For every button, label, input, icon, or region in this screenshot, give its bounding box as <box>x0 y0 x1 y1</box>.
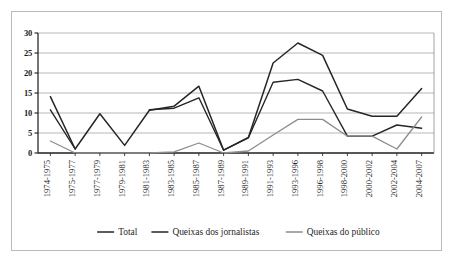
x-tick-label: 1993-1996 <box>290 159 300 197</box>
x-tick-label: 1981-1983 <box>141 160 151 197</box>
x-tick-label: 1974-1975 <box>42 160 52 197</box>
x-tick-label: 1989-1991 <box>240 160 250 197</box>
x-tick-label: 2004-2007 <box>414 159 424 197</box>
y-tick-label: 25 <box>24 48 32 58</box>
series-line <box>149 79 421 150</box>
x-tick-label: 1987-1989 <box>216 160 226 197</box>
y-tick-label: 5 <box>28 128 32 138</box>
series-line <box>50 43 421 150</box>
x-tick-label: 1998-2000 <box>339 160 349 197</box>
y-tick-label: 0 <box>28 148 32 158</box>
x-tick-label: 1985-1987 <box>191 159 201 197</box>
x-tick-label: 1996-1998 <box>315 160 325 197</box>
legend-label: Queixas dos jornalistas <box>172 227 259 237</box>
x-tick-label: 2002-2004 <box>389 159 399 197</box>
x-tick-label: 1977-1979 <box>92 160 102 197</box>
y-tick-label: 10 <box>24 108 32 118</box>
y-tick-label: 30 <box>24 28 32 38</box>
legend-label: Queixas do público <box>307 227 380 237</box>
chart-legend: TotalQueixas dos jornalistasQueixas do p… <box>97 227 380 237</box>
y-tick-label: 20 <box>24 68 32 78</box>
x-axis-ticks: 1974-19751975-19771977-19791979-19811981… <box>42 153 423 197</box>
x-tick-label: 1975-1977 <box>67 159 77 197</box>
y-axis-ticks: 051015202530 <box>24 28 38 158</box>
x-tick-label: 1979-1981 <box>117 160 127 197</box>
x-tick-label: 2000-2002 <box>364 160 374 197</box>
x-tick-label: 1983-1985 <box>166 160 176 197</box>
data-series <box>50 43 421 153</box>
y-tick-label: 15 <box>24 88 32 98</box>
line-chart: 051015202530 1974-19751975-19771977-1979… <box>0 0 459 270</box>
x-tick-label: 1991-1993 <box>265 160 275 197</box>
chart-page: 051015202530 1974-19751975-19771977-1979… <box>0 0 459 270</box>
legend-label: Total <box>118 227 138 237</box>
